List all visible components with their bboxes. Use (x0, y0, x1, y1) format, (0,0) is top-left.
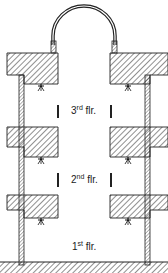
sprinkler-icon (125, 218, 131, 225)
floor-slab-2-right (110, 195, 168, 218)
floor-label-2: 2nd flr. (71, 175, 98, 185)
building-section-diagram (0, 0, 168, 273)
opening-marker (57, 173, 59, 187)
right-wall (145, 75, 150, 265)
floor-label-1: 1st flr. (72, 242, 96, 252)
left-wall (19, 75, 24, 265)
floor-slab-3-right (110, 127, 168, 157)
floor-slab-3-left (7, 127, 58, 157)
floor-label-3: 3rd flr. (71, 106, 96, 116)
roof-slab-left (7, 53, 58, 84)
floor-slab-2-left (7, 195, 58, 218)
sprinkler-icon (125, 84, 131, 91)
sprinkler-icon (38, 218, 44, 225)
dome-roof (51, 6, 117, 53)
opening-marker (110, 173, 112, 187)
ground (0, 262, 168, 273)
opening-marker (110, 105, 112, 118)
sprinkler-icon (38, 84, 44, 91)
sprinkler-icon (125, 157, 131, 164)
sprinkler-icon (38, 157, 44, 164)
opening-marker (57, 105, 59, 118)
roof-slab-right (110, 53, 168, 84)
